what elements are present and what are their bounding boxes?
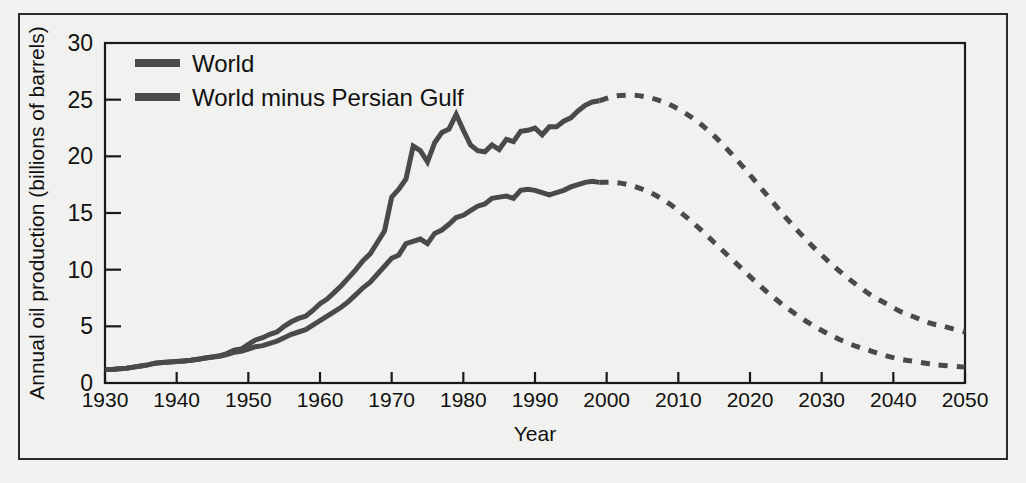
y-axis-tick-labels: 051015202530 <box>67 30 93 396</box>
x-axis-ticks <box>105 372 965 383</box>
x-axis-title: Year <box>514 422 556 445</box>
y-tick-label: 20 <box>67 143 93 169</box>
y-tick-label: 25 <box>67 87 93 113</box>
x-tick-label: 1970 <box>368 388 415 411</box>
oil-production-line-chart: 1930194019501960197019801990200020102020… <box>0 0 1026 483</box>
y-axis-title: Annual oil production (billions of barre… <box>25 26 48 400</box>
y-tick-label: 10 <box>67 257 93 283</box>
x-tick-label: 2030 <box>798 388 845 411</box>
figure-background: 1930194019501960197019801990200020102020… <box>0 0 1026 483</box>
x-tick-label: 1940 <box>153 388 200 411</box>
chart-legend: WorldWorld minus Persian Gulf <box>135 50 464 111</box>
x-tick-label: 1990 <box>512 388 559 411</box>
y-tick-label: 0 <box>80 370 93 396</box>
x-tick-label: 2010 <box>655 388 702 411</box>
y-tick-label: 5 <box>80 313 93 339</box>
legend-label: World <box>192 50 254 77</box>
x-tick-label: 2050 <box>942 388 989 411</box>
legend-label: World minus Persian Gulf <box>192 84 464 111</box>
projection-line-world <box>600 95 966 332</box>
series-lines <box>105 95 965 369</box>
y-tick-label: 30 <box>67 30 93 56</box>
x-tick-label: 2040 <box>870 388 917 411</box>
projection-line-world-minus-persian-gulf <box>600 182 966 367</box>
y-axis-ticks <box>105 100 121 327</box>
series-line-world <box>105 101 600 370</box>
y-tick-label: 15 <box>67 200 93 226</box>
x-tick-label: 2000 <box>583 388 630 411</box>
x-tick-label: 2020 <box>727 388 774 411</box>
x-axis-tick-labels: 1930194019501960197019801990200020102020… <box>82 388 989 411</box>
x-tick-label: 1960 <box>297 388 344 411</box>
x-tick-label: 1950 <box>225 388 272 411</box>
x-tick-label: 1980 <box>440 388 487 411</box>
